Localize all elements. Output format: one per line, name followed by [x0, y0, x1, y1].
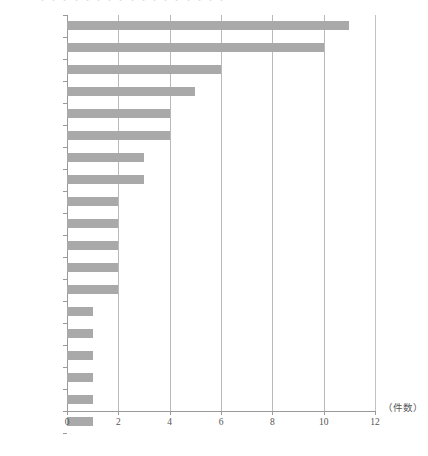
y-tick-0 [63, 15, 67, 16]
bar-row: 相手 [67, 103, 375, 125]
bar-chart: ・・・・・・・・・・・・・・・・・ 遅いかわいそう悪いだめ相手意地悪自分泣く悲し… [0, 0, 428, 456]
x-axis-unit-label: （件数） [383, 400, 423, 414]
bar-row: 泣く [67, 169, 375, 191]
x-tick-2 [118, 411, 119, 415]
bar [67, 131, 170, 140]
y-tick-17 [63, 389, 67, 390]
bar-row: お父さん [67, 389, 375, 411]
bar [67, 329, 93, 338]
bar-row: 遅い [67, 15, 375, 37]
plot-area: 遅いかわいそう悪いだめ相手意地悪自分泣く悲しい言われた人言葉いけない頑張る大事仕… [67, 15, 375, 411]
bar-row: 良くない [67, 345, 375, 367]
x-tick-0 [67, 411, 68, 415]
y-tick-6 [63, 147, 67, 148]
x-tick-4 [170, 411, 171, 415]
bar [67, 197, 118, 206]
y-tick-7 [63, 169, 67, 170]
bar [67, 307, 93, 316]
y-tick-1 [63, 37, 67, 38]
bar [67, 219, 118, 228]
bar-row: 嫌な気持ち [67, 367, 375, 389]
bar [67, 175, 144, 184]
bar [67, 395, 93, 404]
y-tick-11 [63, 257, 67, 258]
y-tick-12 [63, 279, 67, 280]
bar [67, 351, 93, 360]
bar [67, 43, 324, 52]
bar-row: いけない [67, 257, 375, 279]
y-tick-2 [63, 59, 67, 60]
x-tick-label-12: 12 [370, 417, 380, 427]
gridline-12 [375, 15, 376, 411]
bar-row: 仕方がない [67, 323, 375, 345]
bar-row: だめ [67, 81, 375, 103]
x-tick-label-2: 2 [116, 417, 121, 427]
bar-row: 頑張る [67, 279, 375, 301]
y-tick-3 [63, 81, 67, 82]
bar [67, 65, 221, 74]
bar-row: 悪い [67, 59, 375, 81]
y-tick-5 [63, 125, 67, 126]
x-tick-10 [324, 411, 325, 415]
y-tick-4 [63, 103, 67, 104]
bar-row: 自分 [67, 147, 375, 169]
y-tick-13 [63, 301, 67, 302]
x-tick-8 [272, 411, 273, 415]
bar [67, 241, 118, 250]
cut-off-caption: ・・・・・・・・・・・・・・・・・ [0, 0, 428, 7]
y-tick-end [63, 433, 67, 434]
bar-row: 言われた人 [67, 213, 375, 235]
bar [67, 21, 349, 30]
bar-row: 意地悪 [67, 125, 375, 147]
y-tick-15 [63, 345, 67, 346]
bar [67, 263, 118, 272]
bar-row: 言葉 [67, 235, 375, 257]
bar [67, 109, 170, 118]
x-tick-label-0: 0 [65, 417, 70, 427]
y-tick-16 [63, 367, 67, 368]
x-tick-label-8: 8 [270, 417, 275, 427]
cut-off-caption-text: ・・・・・・・・・・・・・・・・・ [38, 0, 228, 6]
y-tick-14 [63, 323, 67, 324]
bar [67, 285, 118, 294]
x-tick-12 [375, 411, 376, 415]
y-tick-9 [63, 213, 67, 214]
x-tick-label-4: 4 [167, 417, 172, 427]
y-tick-10 [63, 235, 67, 236]
bar [67, 87, 195, 96]
x-tick-label-6: 6 [219, 417, 224, 427]
x-tick-label-10: 10 [319, 417, 329, 427]
bar [67, 373, 93, 382]
bar-row: 悲しい [67, 191, 375, 213]
x-tick-6 [221, 411, 222, 415]
bar [67, 153, 144, 162]
y-tick-8 [63, 191, 67, 192]
bar [67, 417, 93, 426]
bar-row: 大事 [67, 301, 375, 323]
bar-row: かわいそう [67, 37, 375, 59]
